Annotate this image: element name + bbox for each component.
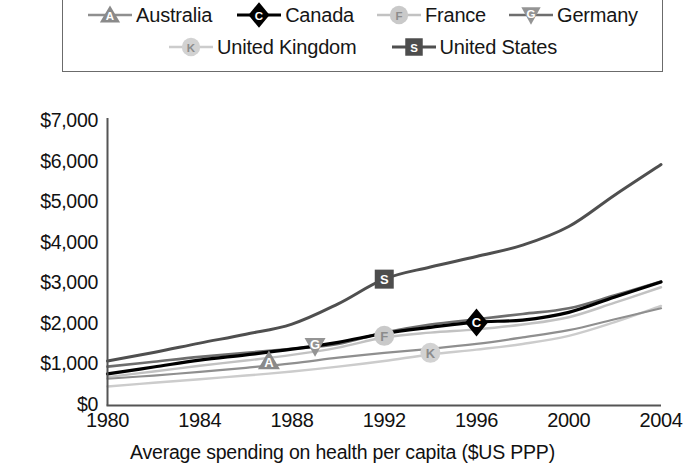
legend-label-united_states: United States <box>440 36 557 59</box>
x-tick-2004: 2004 <box>621 409 685 432</box>
svg-text:F: F <box>395 10 402 22</box>
y-tick-7000: $7,000 <box>2 109 98 132</box>
x-axis-title: Average spending on health per capita ($… <box>0 441 685 464</box>
chart-root: AAustraliaCCanadaFFranceGGermany KUnited… <box>0 0 685 474</box>
y-tick-2000: $2,000 <box>2 312 98 335</box>
legend-marker-germany: G <box>508 1 554 29</box>
data-marker-label-united_kingdom: K <box>426 346 436 361</box>
legend-row-2: KUnited KingdomSUnited States <box>63 33 662 61</box>
y-tick-5000: $5,000 <box>2 190 98 213</box>
data-marker-label-australia: A <box>264 355 274 370</box>
x-tick-2000: 2000 <box>529 409 609 432</box>
chart-legend: AAustraliaCCanadaFFranceGGermany KUnited… <box>62 0 663 72</box>
y-tick-1000: $1,000 <box>2 352 98 375</box>
legend-label-united_kingdom: United Kingdom <box>217 36 357 59</box>
legend-label-australia: Australia <box>136 4 212 27</box>
data-marker-label-united_states: S <box>380 272 389 287</box>
legend-entry-australia[interactable]: AAustralia <box>87 1 212 29</box>
data-marker-label-canada: C <box>472 315 482 330</box>
y-tick-3000: $3,000 <box>2 271 98 294</box>
svg-text:K: K <box>187 42 196 54</box>
legend-row-1: AAustraliaCCanadaFFranceGGermany <box>63 1 662 29</box>
x-tick-1980: 1980 <box>68 409 148 432</box>
legend-marker-australia: A <box>87 1 133 29</box>
legend-marker-united_states: S <box>391 33 437 61</box>
legend-entry-united_states[interactable]: SUnited States <box>391 33 557 61</box>
data-marker-label-france: F <box>380 329 388 344</box>
legend-label-france: France <box>425 4 486 27</box>
legend-marker-united_kingdom: K <box>168 33 214 61</box>
legend-entry-germany[interactable]: GGermany <box>508 1 638 29</box>
data-marker-label-germany: G <box>310 337 320 352</box>
svg-text:C: C <box>255 10 263 22</box>
legend-entry-canada[interactable]: CCanada <box>236 1 354 29</box>
y-tick-6000: $6,000 <box>2 150 98 173</box>
legend-entry-france[interactable]: FFrance <box>376 1 486 29</box>
x-tick-1988: 1988 <box>252 409 332 432</box>
legend-label-canada: Canada <box>285 4 354 27</box>
legend-label-germany: Germany <box>557 4 638 27</box>
legend-marker-france: F <box>376 1 422 29</box>
svg-text:S: S <box>410 42 418 54</box>
legend-marker-canada: C <box>236 1 282 29</box>
svg-text:G: G <box>527 8 536 20</box>
svg-text:A: A <box>106 10 114 22</box>
x-tick-1992: 1992 <box>344 409 424 432</box>
x-tick-1996: 1996 <box>437 409 517 432</box>
x-tick-1984: 1984 <box>160 409 240 432</box>
y-tick-4000: $4,000 <box>2 231 98 254</box>
legend-entry-united_kingdom[interactable]: KUnited Kingdom <box>168 33 357 61</box>
